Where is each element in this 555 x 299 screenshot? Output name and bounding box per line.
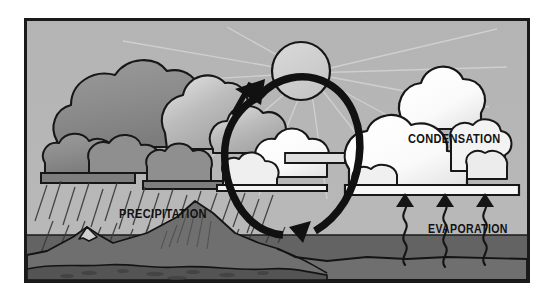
label-precipitation: PRECIPITATION (119, 207, 207, 221)
diagram-stage: PRECIPITATION CONDENSATION EVAPORATION (0, 0, 555, 299)
sun-icon (272, 42, 330, 100)
diagram-frame: PRECIPITATION CONDENSATION EVAPORATION (24, 18, 530, 283)
label-evaporation: EVAPORATION (428, 222, 508, 236)
label-condensation: CONDENSATION (408, 132, 501, 146)
water-cycle-illustration (27, 21, 527, 280)
